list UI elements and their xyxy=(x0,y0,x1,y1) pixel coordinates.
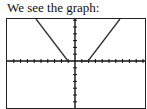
graph-window xyxy=(0,0,147,109)
